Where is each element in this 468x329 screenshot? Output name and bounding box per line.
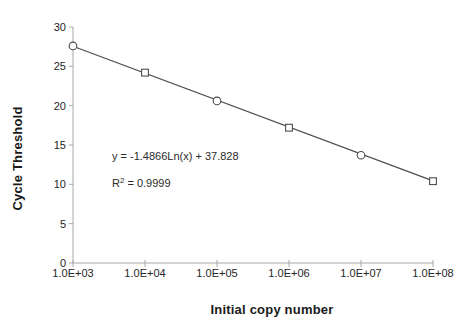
x-tick-label: 1.0E+06 [268,267,309,279]
data-point-circle [69,42,77,50]
x-tick-label: 1.0E+07 [340,267,381,279]
data-point-circle [357,151,365,159]
chart-canvas: 0510152025301.0E+031.0E+041.0E+051.0E+06… [0,0,468,329]
y-tick-label: 15 [54,139,66,151]
y-axis-title: Cycle Threshold [10,87,25,231]
r-squared-base: R [112,177,120,189]
data-point-square [142,69,149,76]
data-point-circle [213,97,221,105]
chart-figure: 0510152025301.0E+031.0E+041.0E+051.0E+06… [0,0,468,329]
y-tick-label: 25 [54,60,66,72]
data-point-square [286,124,293,131]
r-squared-value: = 0.9999 [124,177,170,189]
x-tick-label: 1.0E+04 [124,267,165,279]
r-squared-annotation: R2 = 0.9999 [112,176,171,189]
y-tick-label: 10 [54,178,66,190]
y-tick-label: 5 [60,218,66,230]
x-tick-label: 1.0E+03 [52,267,93,279]
x-tick-label: 1.0E+08 [412,267,453,279]
x-tick-label: 1.0E+05 [196,267,237,279]
y-tick-label: 20 [54,100,66,112]
y-tick-label: 30 [54,21,66,33]
data-point-square [430,178,437,185]
trendline-equation: y = -1.4866Ln(x) + 37.828 [112,150,239,162]
x-axis-title: Initial copy number [211,302,334,317]
